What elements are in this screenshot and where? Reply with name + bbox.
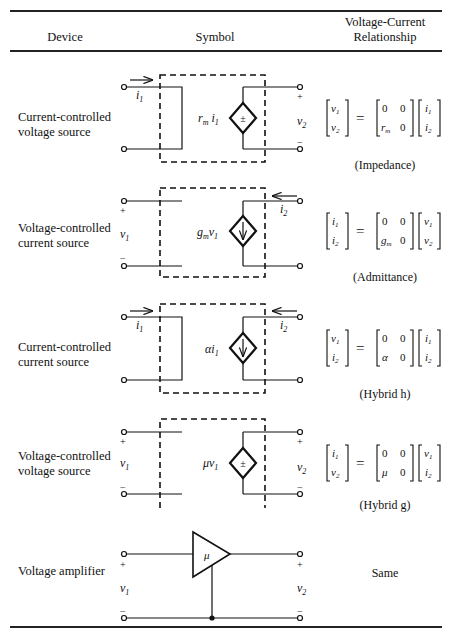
svg-text:i1: i1 <box>425 102 432 116</box>
svg-text:v2: v2 <box>297 581 306 597</box>
svg-text:i1: i1 <box>332 447 339 461</box>
svg-text:0: 0 <box>382 215 388 227</box>
svg-text:+: + <box>120 559 126 570</box>
svg-text:+: + <box>297 559 303 570</box>
plus-minus-icon: ± <box>240 458 246 469</box>
svg-text:μ: μ <box>381 466 388 478</box>
svg-text:=: = <box>356 340 364 356</box>
svg-text:i2: i2 <box>332 351 339 365</box>
svg-text:v1: v1 <box>331 332 339 346</box>
svg-text:+: + <box>120 436 126 447</box>
svg-text:i2: i2 <box>425 121 432 135</box>
svg-text:0: 0 <box>400 332 406 344</box>
svg-text:i1: i1 <box>425 332 432 346</box>
svg-text:rm: rm <box>381 121 390 135</box>
svg-text:0: 0 <box>400 121 406 133</box>
svg-text:i2: i2 <box>280 318 287 334</box>
svg-text:i2: i2 <box>332 234 339 248</box>
svg-text:v2: v2 <box>297 114 306 130</box>
svg-text:=: = <box>356 223 364 239</box>
svg-text:v2: v2 <box>424 234 433 248</box>
svg-text:=: = <box>356 455 364 471</box>
svg-text:v1: v1 <box>120 227 129 243</box>
svg-text:+: + <box>120 205 126 216</box>
svg-text:=: = <box>356 110 364 126</box>
svg-text:+: + <box>297 91 303 102</box>
svg-text:−: − <box>120 482 126 493</box>
svg-text:αi1: αi1 <box>205 342 219 358</box>
svg-text:μ: μ <box>203 549 210 561</box>
svg-text:gm: gm <box>381 234 392 248</box>
svg-text:+: + <box>297 436 303 447</box>
equation-hybrid-h: v1 i2 = 00 α0 i1 i2 <box>331 332 432 365</box>
svg-text:rm i1: rm i1 <box>198 111 219 127</box>
svg-text:i2: i2 <box>425 351 432 365</box>
svg-text:v2: v2 <box>331 466 340 480</box>
svg-text:0: 0 <box>400 234 406 246</box>
svg-text:v1: v1 <box>120 581 129 597</box>
matrix-brackets <box>327 100 440 481</box>
svg-text:μv1: μv1 <box>202 456 218 472</box>
svg-text:−: − <box>297 482 303 493</box>
plus-minus-icon: ± <box>240 113 246 124</box>
svg-text:v1: v1 <box>331 102 339 116</box>
svg-text:i2: i2 <box>280 202 287 218</box>
svg-text:0: 0 <box>382 102 388 114</box>
svg-text:v2: v2 <box>297 460 306 476</box>
svg-text:i1: i1 <box>136 318 143 334</box>
equation-impedance: v1 v2 = 00 rm0 i1 i2 <box>331 102 432 135</box>
svg-text:α: α <box>382 351 388 363</box>
svg-text:0: 0 <box>400 447 406 459</box>
svg-text:i1: i1 <box>332 215 339 229</box>
svg-text:gmv1: gmv1 <box>197 225 218 241</box>
equation-hybrid-g: i1 v2 = 00 μ0 v1 i2 <box>331 447 432 480</box>
svg-text:0: 0 <box>382 332 388 344</box>
svg-text:v1: v1 <box>424 447 432 461</box>
svg-text:i2: i2 <box>425 466 432 480</box>
svg-text:0: 0 <box>400 215 406 227</box>
svg-text:i1: i1 <box>136 88 143 104</box>
svg-text:−: − <box>297 137 303 148</box>
svg-text:v1: v1 <box>120 456 129 472</box>
svg-text:−: − <box>297 606 303 617</box>
svg-text:0: 0 <box>400 102 406 114</box>
circuit-diagrams: ± i1 rm i1 + v2 − + v1 − gmv1 i2 <box>0 0 452 636</box>
svg-text:0: 0 <box>400 351 406 363</box>
amplifier-symbol <box>122 532 303 621</box>
equation-admittance: i1 i2 = 00 gm0 v1 v2 <box>332 215 433 248</box>
svg-text:v1: v1 <box>424 215 432 229</box>
svg-text:0: 0 <box>400 466 406 478</box>
svg-text:v2: v2 <box>331 121 340 135</box>
svg-text:−: − <box>120 606 126 617</box>
svg-text:−: − <box>120 253 126 264</box>
svg-text:0: 0 <box>382 447 388 459</box>
